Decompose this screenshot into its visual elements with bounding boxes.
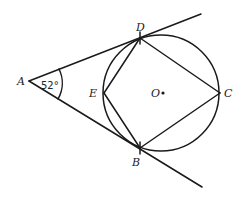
label-a: A — [16, 75, 25, 88]
angle-label: 52° — [41, 80, 59, 91]
label-e: E — [88, 87, 97, 100]
center-dot-o — [161, 91, 164, 94]
tangent-line-ab — [29, 81, 202, 187]
label-b: B — [131, 156, 140, 169]
label-o: O — [151, 87, 160, 100]
geometry-diagram: A 52° D E O C B — [0, 0, 245, 201]
segment-cb — [140, 93, 220, 148]
label-c: C — [224, 87, 233, 100]
label-d: D — [135, 21, 145, 34]
diagram-canvas: A 52° D E O C B — [0, 0, 245, 201]
tangent-line-ad — [29, 14, 201, 81]
segment-dc — [140, 38, 220, 93]
